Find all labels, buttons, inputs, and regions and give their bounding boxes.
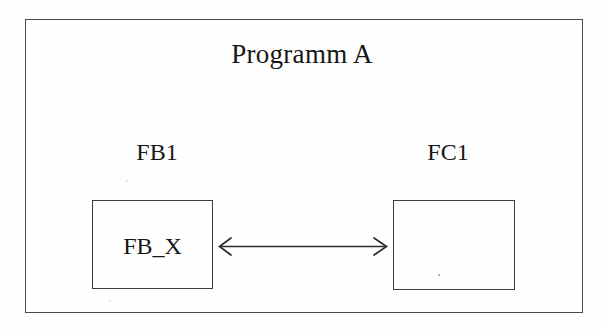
scan-speckle [438, 274, 440, 276]
block-box-fb1-text: FB_X [123, 233, 182, 259]
scan-speckle [109, 300, 111, 302]
block-label-fc1: FC1 [388, 139, 508, 165]
block-box-fb1: FB_X [92, 200, 213, 289]
diagram-canvas: Programm A FB1 FC1 FB_X [0, 0, 604, 331]
block-box-fc1 [393, 200, 515, 290]
program-title: Programm A [0, 38, 604, 70]
block-label-fb1: FB1 [97, 139, 217, 165]
scan-speckle [126, 180, 128, 182]
